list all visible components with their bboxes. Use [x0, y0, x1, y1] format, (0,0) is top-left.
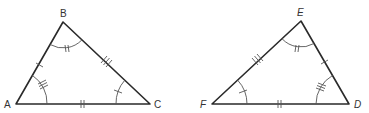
angle-b-arc	[50, 40, 82, 48]
vertex-label-a: A	[4, 99, 11, 110]
angle-d-arc	[316, 76, 333, 105]
angle-e-mark-double	[295, 45, 299, 52]
angle-f-mark-single	[239, 90, 247, 93]
triangle-abc: A B C	[4, 8, 161, 110]
triangle-def-outline	[212, 21, 349, 104]
vertex-label-b: B	[60, 8, 67, 19]
vertex-label-f: F	[200, 99, 207, 110]
triangle-def: F E D	[200, 7, 361, 110]
congruent-triangles-diagram: A B C	[0, 0, 369, 113]
vertex-label-e: E	[297, 7, 304, 18]
angle-b-mark-double	[65, 45, 69, 52]
vertex-label-c: C	[154, 99, 161, 110]
angle-e-arc	[282, 39, 314, 47]
side-bc-mark-triple	[101, 56, 112, 67]
angle-a-arc	[32, 75, 47, 104]
vertex-label-d: D	[354, 99, 361, 110]
angle-d-mark-triple	[316, 83, 326, 91]
side-fe-mark-triple	[252, 54, 263, 65]
